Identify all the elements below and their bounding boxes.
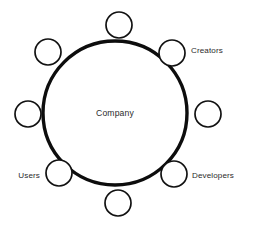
node-circle-top[interactable] xyxy=(106,12,132,38)
diagram-canvas-container: Company Creators Developers Users xyxy=(0,0,254,228)
node-circle-left[interactable] xyxy=(15,101,41,127)
node-circle-top-left[interactable] xyxy=(35,39,61,65)
node-circle-bottom-left[interactable] xyxy=(46,160,72,186)
ecosystem-ring-diagram: Company Creators Developers Users xyxy=(0,0,254,228)
node-circle-bottom-right[interactable] xyxy=(161,161,187,187)
node-circle-top-right[interactable] xyxy=(159,40,185,66)
node-label-developers: Developers xyxy=(192,171,234,180)
node-label-users: Users xyxy=(18,171,40,180)
hub-label-company: Company xyxy=(96,108,134,118)
node-circle-right[interactable] xyxy=(195,101,221,127)
node-label-creators: Creators xyxy=(191,46,223,55)
node-circle-bottom[interactable] xyxy=(105,190,131,216)
